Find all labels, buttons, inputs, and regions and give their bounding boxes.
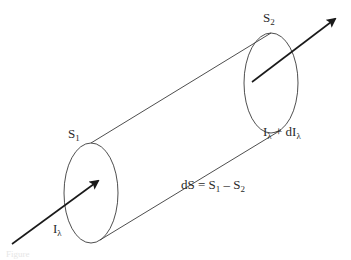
ds-minus: – S xyxy=(220,177,240,192)
surface-s2-ellipse xyxy=(244,33,298,133)
surface-s1-ellipse xyxy=(64,143,118,243)
label-s2: S2 xyxy=(263,11,275,24)
label-outgoing-intensity: Iλ + dIλ xyxy=(263,125,301,138)
label-ds-equation: dS = S1 – S2 xyxy=(181,178,245,191)
outgoing-sub2: λ xyxy=(296,131,300,141)
figure-caption: Figure xyxy=(6,249,30,259)
outgoing-arrow xyxy=(252,19,335,82)
ds-lhs: dS = S xyxy=(181,177,216,192)
label-incident-intensity: Iλ xyxy=(53,222,62,235)
label-s2-sub: 2 xyxy=(270,17,275,27)
outgoing-plus: + dI xyxy=(272,124,297,139)
ds-sub2: 2 xyxy=(241,184,246,194)
label-s1-sub: 1 xyxy=(75,133,80,143)
label-s1: S1 xyxy=(68,127,80,140)
incident-sub: λ xyxy=(57,228,61,238)
